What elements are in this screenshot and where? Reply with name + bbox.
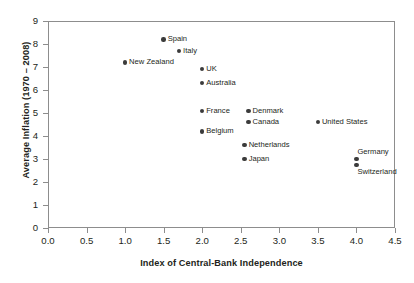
y-tick-mark: [43, 44, 48, 45]
y-tick-label: 9: [8, 16, 38, 26]
y-tick-mark: [43, 21, 48, 22]
y-tick-mark: [43, 113, 48, 114]
data-point-label: Australia: [206, 79, 236, 87]
x-tick-label: 4.5: [375, 236, 414, 246]
data-point-label: Belgium: [206, 127, 233, 135]
y-tick-label: 2: [8, 177, 38, 187]
data-point[interactable]: [200, 129, 204, 133]
y-tick-mark: [43, 90, 48, 91]
x-tick-mark: [87, 228, 88, 233]
x-tick-label: 1.5: [144, 236, 184, 246]
data-point[interactable]: [246, 109, 250, 113]
y-tick-label: 8: [8, 39, 38, 49]
x-tick-mark: [125, 228, 126, 233]
data-point[interactable]: [354, 157, 358, 161]
data-point-label: New Zealand: [129, 58, 174, 66]
data-point[interactable]: [242, 157, 246, 161]
data-point-label: Italy: [183, 47, 197, 55]
x-tick-label: 0.0: [28, 236, 68, 246]
x-tick-mark: [241, 228, 242, 233]
x-tick-mark: [356, 228, 357, 233]
y-tick-mark: [43, 205, 48, 206]
y-tick-mark: [43, 159, 48, 160]
data-point-label: Germany: [357, 148, 388, 156]
data-point-label: Japan: [249, 155, 270, 163]
data-point-label: Switzerland: [357, 168, 396, 176]
x-tick-mark: [164, 228, 165, 233]
y-tick-mark: [43, 136, 48, 137]
x-tick-label: 2.0: [182, 236, 222, 246]
x-tick-mark: [279, 228, 280, 233]
x-tick-mark: [395, 228, 396, 233]
y-tick-label: 7: [8, 62, 38, 72]
x-tick-label: 4.0: [336, 236, 376, 246]
y-tick-label: 6: [8, 85, 38, 95]
x-tick-label: 3.5: [298, 236, 338, 246]
x-tick-mark: [318, 228, 319, 233]
data-point[interactable]: [246, 120, 250, 124]
x-tick-mark: [48, 228, 49, 233]
x-axis-title: Index of Central-Bank Independence: [48, 258, 395, 268]
y-tick-label: 5: [8, 108, 38, 118]
data-point-label: UK: [206, 65, 217, 73]
data-point-label: France: [206, 107, 230, 115]
data-point[interactable]: [161, 37, 165, 41]
x-tick-label: 0.5: [67, 236, 107, 246]
data-point-label: United States: [322, 118, 368, 126]
y-tick-mark: [43, 182, 48, 183]
x-tick-label: 1.0: [105, 236, 145, 246]
data-point[interactable]: [123, 60, 127, 64]
x-tick-label: 3.0: [259, 236, 299, 246]
y-tick-label: 4: [8, 131, 38, 141]
data-point-label: Netherlands: [249, 141, 290, 149]
data-point-label: Denmark: [252, 107, 283, 115]
scatter-chart: Average Inflation (1970 – 2008) Index of…: [0, 0, 414, 283]
y-tick-label: 1: [8, 200, 38, 210]
data-point-label: Spain: [168, 35, 187, 43]
y-tick-label: 0: [8, 223, 38, 233]
x-tick-mark: [202, 228, 203, 233]
y-tick-label: 3: [8, 154, 38, 164]
data-point-label: Canada: [252, 118, 279, 126]
x-tick-label: 2.5: [221, 236, 261, 246]
y-tick-mark: [43, 67, 48, 68]
